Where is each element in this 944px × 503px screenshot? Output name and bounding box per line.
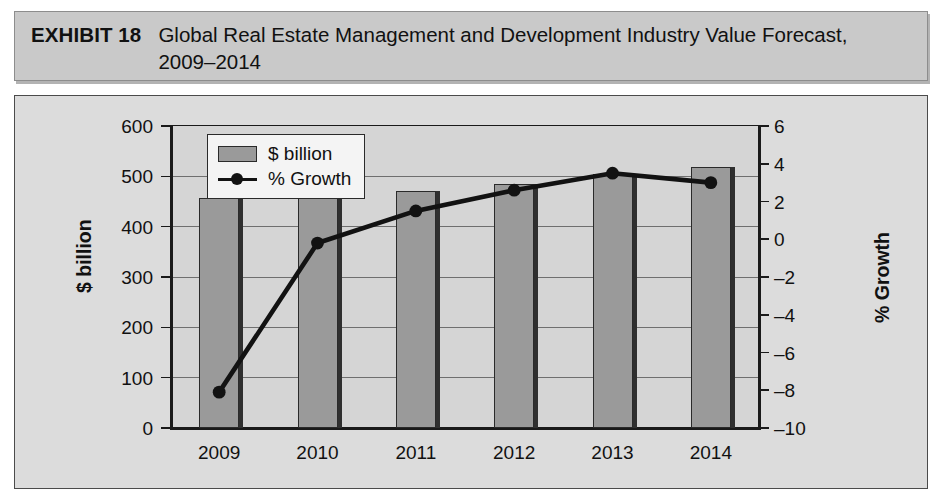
chart-legend: $ billion % Growth	[207, 134, 365, 199]
growth-line-path	[219, 173, 711, 392]
y-axis-tick	[161, 276, 170, 278]
x-axis-label-2012: 2012	[464, 442, 564, 464]
chart-panel: $ billion % Growth 0100200300400500600 –…	[14, 95, 928, 489]
y2-axis-title: % Growth	[871, 232, 894, 323]
legend-item-bar: $ billion	[218, 141, 351, 166]
exhibit-page: EXHIBIT 18 Global Real Estate Management…	[0, 0, 944, 503]
legend-line-marker-icon	[218, 171, 257, 187]
y2-axis-tick	[760, 238, 769, 240]
y-axis-tick-label: 500	[85, 167, 153, 186]
x-axis-label-2014: 2014	[661, 442, 761, 464]
y2-axis-tick-label: –10	[774, 419, 806, 438]
legend-bar-swatch-icon	[218, 146, 257, 162]
y-axis-tick	[161, 427, 170, 429]
growth-marker-2009	[213, 386, 226, 399]
y2-axis-tick	[760, 352, 769, 354]
plot-area: 0100200300400500600 –10–8–6–4–20246 2009…	[170, 126, 760, 428]
x-axis-label-2010: 2010	[268, 442, 368, 464]
y-axis-tick-label: 400	[85, 218, 153, 237]
y-axis-tick	[161, 377, 170, 379]
y2-axis-tick	[760, 201, 769, 203]
growth-marker-2013	[606, 167, 619, 180]
y2-axis-tick-label: –8	[774, 381, 795, 400]
exhibit-title-bar: EXHIBIT 18 Global Real Estate Management…	[14, 11, 928, 81]
exhibit-number-label: EXHIBIT 18	[31, 21, 141, 48]
y2-axis-tick-label: 6	[774, 117, 785, 136]
y2-axis-tick	[760, 163, 769, 165]
y2-axis-tick	[760, 125, 769, 127]
y-axis-tick	[161, 125, 170, 127]
growth-marker-2014	[704, 176, 717, 189]
y-axis-tick-label: 600	[85, 117, 153, 136]
y2-axis-tick-label: –2	[774, 268, 795, 287]
y-axis-tick-label: 0	[85, 419, 153, 438]
y2-axis-tick	[760, 276, 769, 278]
x-axis-label-2009: 2009	[169, 442, 269, 464]
growth-marker-2010	[311, 237, 324, 250]
legend-item-line: % Growth	[218, 166, 351, 191]
y2-axis-tick-label: 4	[774, 155, 785, 174]
y2-axis-tick	[760, 427, 769, 429]
legend-label-line: % Growth	[268, 169, 351, 188]
y2-axis-tick	[760, 389, 769, 391]
x-axis-label-2011: 2011	[366, 442, 466, 464]
legend-label-bar: $ billion	[268, 144, 332, 163]
exhibit-title-text: Global Real Estate Management and Develo…	[158, 21, 848, 75]
x-axis-label-2013: 2013	[563, 442, 663, 464]
y-axis-tick	[161, 327, 170, 329]
y-axis-tick-label: 300	[85, 268, 153, 287]
y-axis-tick	[161, 176, 170, 178]
exhibit-title-inner: EXHIBIT 18 Global Real Estate Management…	[15, 12, 927, 75]
growth-marker-2012	[508, 184, 521, 197]
growth-marker-2011	[409, 205, 422, 218]
y-axis-tick-label: 200	[85, 318, 153, 337]
y2-axis-tick	[760, 314, 769, 316]
y2-axis-tick-label: 2	[774, 193, 785, 212]
y-axis-tick-label: 100	[85, 369, 153, 388]
y2-axis-tick-label: 0	[774, 230, 785, 249]
y2-axis-tick-label: –4	[774, 306, 795, 325]
y2-axis-tick-label: –6	[774, 344, 795, 363]
y-axis-tick	[161, 226, 170, 228]
